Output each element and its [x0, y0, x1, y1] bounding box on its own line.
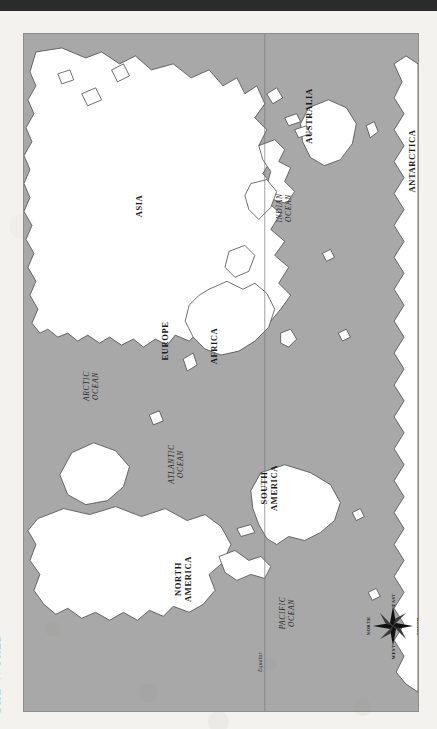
landmass-south-america	[251, 465, 341, 545]
map-page: ASIA EUROPE AFRICA AUSTRALIA ANTARCTICA …	[0, 0, 437, 729]
landmass-new-zealand	[366, 122, 378, 138]
scan-edge-band	[0, 0, 437, 11]
island-britain	[183, 353, 197, 371]
island-misc-3	[352, 509, 364, 521]
landmass-north-america	[28, 507, 231, 621]
island-misc-2	[338, 329, 350, 341]
compass-star-icon	[373, 606, 413, 646]
world-map-plate[interactable]: ASIA EUROPE AFRICA AUSTRALIA ANTARCTICA …	[23, 33, 419, 712]
island-misc-1	[322, 249, 334, 261]
landmass-central-america	[219, 550, 271, 580]
island-indonesia-2	[285, 114, 301, 126]
compass-rose[interactable]: NORTH SOUTH EAST WEST	[373, 606, 413, 646]
island-caribbean	[237, 525, 255, 537]
landmass-antarctica	[394, 56, 418, 692]
island-iceland	[149, 411, 163, 425]
landmass-madagascar	[281, 329, 297, 347]
island-misc-4	[368, 588, 380, 600]
landmass-greenland	[60, 443, 130, 505]
world-map-graphic	[24, 34, 418, 711]
page-title: The World	[0, 633, 4, 715]
island-japan	[267, 88, 283, 104]
